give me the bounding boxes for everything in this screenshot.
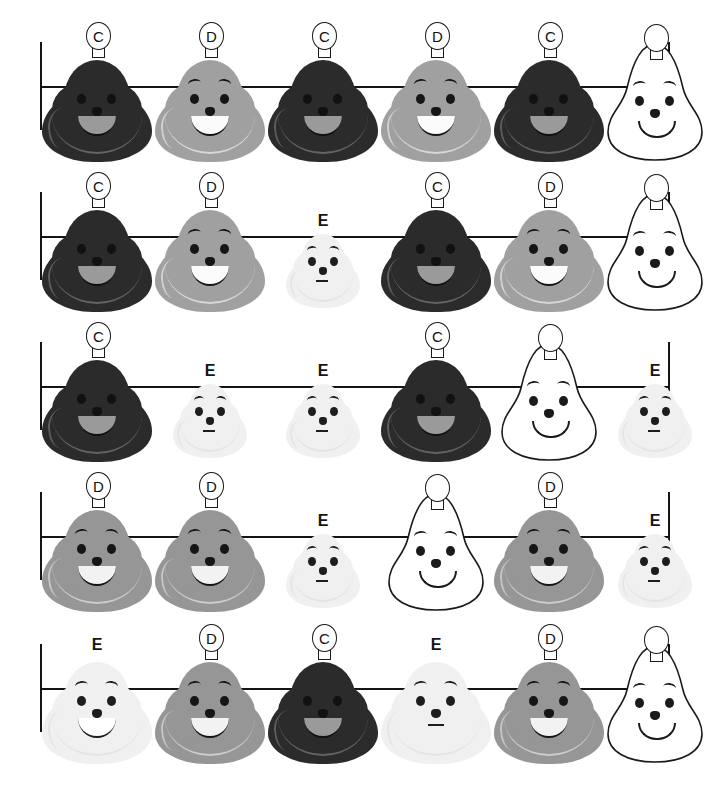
mouth-smile: [78, 116, 116, 136]
character-cell[interactable]: D: [494, 170, 604, 320]
grade-badge[interactable]: D: [538, 624, 563, 652]
grade-badge[interactable]: D: [199, 172, 224, 200]
blob-character[interactable]: [618, 520, 692, 608]
grade-badge[interactable]: C: [425, 172, 450, 200]
character-cell[interactable]: [381, 470, 491, 620]
eyebrow-left: [187, 680, 201, 691]
blob-character[interactable]: D: [155, 42, 265, 162]
mouth-flat: [316, 418, 328, 432]
grade-badge[interactable]: C: [86, 22, 111, 50]
blob-character[interactable]: D: [155, 192, 265, 312]
blob-character[interactable]: D: [494, 492, 604, 612]
blob-character[interactable]: [618, 370, 692, 458]
character-cell[interactable]: E: [268, 470, 378, 620]
grade-badge[interactable]: D: [538, 172, 563, 200]
character-cell[interactable]: D: [494, 622, 604, 772]
character-cell[interactable]: D: [42, 470, 152, 620]
blob-character[interactable]: C: [381, 192, 491, 312]
grade-badge[interactable]: D: [86, 472, 111, 500]
blob-character[interactable]: D: [155, 492, 265, 612]
grade-badge[interactable]: C: [312, 22, 337, 50]
character-cell[interactable]: C: [42, 320, 152, 470]
character-cell[interactable]: C: [42, 170, 152, 320]
character-cell[interactable]: D: [155, 470, 265, 620]
blob-character[interactable]: [494, 338, 604, 464]
character-cell[interactable]: C: [494, 20, 604, 170]
character-cell[interactable]: E: [600, 470, 707, 620]
blob-character[interactable]: C: [42, 42, 152, 162]
character-cell[interactable]: [600, 170, 707, 320]
character-cell[interactable]: E: [155, 320, 265, 470]
character-cell[interactable]: [600, 622, 707, 772]
blob-character[interactable]: [173, 370, 247, 458]
grade-badge[interactable]: D: [199, 624, 224, 652]
grade-badge[interactable]: C: [86, 322, 111, 350]
grade-badge[interactable]: D: [538, 472, 563, 500]
character-cell[interactable]: C: [268, 20, 378, 170]
blob-character[interactable]: C: [42, 342, 152, 462]
blob-character[interactable]: C: [268, 644, 378, 764]
eye-right: [330, 257, 338, 266]
blob-character[interactable]: C: [268, 42, 378, 162]
blob-character[interactable]: [286, 520, 360, 608]
grade-badge[interactable]: [644, 626, 669, 654]
grade-badge[interactable]: D: [425, 22, 450, 50]
character-cell[interactable]: D: [155, 622, 265, 772]
blob-character[interactable]: D: [494, 192, 604, 312]
grade-badge[interactable]: [644, 174, 669, 202]
blob-face: [268, 644, 378, 764]
blob-character[interactable]: C: [494, 42, 604, 162]
character-cell[interactable]: D: [155, 20, 265, 170]
blob-character[interactable]: [381, 644, 491, 764]
character-cell[interactable]: [600, 20, 707, 170]
grade-badge[interactable]: C: [312, 624, 337, 652]
blob-face: [42, 42, 152, 162]
grade-badge[interactable]: C: [538, 22, 563, 50]
blob-character[interactable]: D: [155, 644, 265, 764]
mouth-line: [638, 271, 676, 288]
blob-character[interactable]: [381, 488, 491, 614]
character-cell[interactable]: D: [155, 170, 265, 320]
grade-badge[interactable]: [644, 24, 669, 52]
eyebrow-left: [526, 528, 540, 539]
blob-character[interactable]: [42, 644, 152, 764]
grade-badge[interactable]: D: [199, 22, 224, 50]
blob-character[interactable]: C: [381, 342, 491, 462]
character-cell[interactable]: C: [268, 622, 378, 772]
blob-character[interactable]: [600, 640, 707, 766]
eye-right: [665, 246, 674, 256]
blob-character[interactable]: [286, 220, 360, 308]
character-cell[interactable]: E: [42, 622, 152, 772]
mouth-smile: [78, 266, 116, 286]
nose: [92, 709, 102, 718]
blob-character[interactable]: D: [42, 492, 152, 612]
blob-face: [155, 644, 265, 764]
character-cell[interactable]: D: [381, 20, 491, 170]
character-cell[interactable]: E: [600, 320, 707, 470]
grade-badge[interactable]: D: [199, 472, 224, 500]
eyebrow-right: [328, 545, 339, 554]
blob-character[interactable]: [600, 188, 707, 314]
character-cell[interactable]: E: [381, 622, 491, 772]
blob-character[interactable]: D: [381, 42, 491, 162]
eye-left: [77, 544, 86, 554]
blob-character[interactable]: D: [494, 644, 604, 764]
blob-character[interactable]: [286, 370, 360, 458]
blob-character[interactable]: C: [42, 192, 152, 312]
character-cell[interactable]: C: [381, 170, 491, 320]
grade-badge[interactable]: C: [86, 172, 111, 200]
eye-left: [529, 696, 538, 706]
character-cell[interactable]: C: [42, 20, 152, 170]
grade-badge[interactable]: [425, 474, 450, 502]
grade-badge[interactable]: C: [425, 322, 450, 350]
eye-right: [559, 696, 568, 706]
grade-badge[interactable]: [538, 324, 563, 352]
eyebrow-right: [660, 395, 671, 404]
character-cell[interactable]: D: [494, 470, 604, 620]
character-cell[interactable]: [494, 320, 604, 470]
character-cell[interactable]: C: [381, 320, 491, 470]
character-cell[interactable]: E: [268, 170, 378, 320]
character-cell[interactable]: E: [268, 320, 378, 470]
blob-character[interactable]: [600, 38, 707, 164]
blob-face: [600, 194, 707, 314]
